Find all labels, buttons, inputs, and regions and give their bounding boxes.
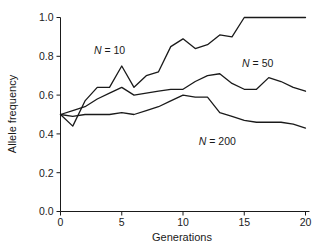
- x-tick-label: 20: [300, 216, 312, 228]
- x-tick-label: 0: [58, 216, 64, 228]
- chart-canvas: 0.00.20.40.60.81.0 05101520 N = 10N = 50…: [0, 0, 330, 251]
- series-label: N = 200: [199, 135, 236, 147]
- y-tick-label: 1.0: [39, 11, 54, 23]
- series-line: [61, 95, 306, 128]
- allele-frequency-chart: 0.00.20.40.60.81.0 05101520 N = 10N = 50…: [0, 0, 330, 251]
- chart-series-lines: [61, 18, 306, 129]
- x-tick-label: 5: [119, 216, 125, 228]
- x-tick-label: 15: [238, 216, 250, 228]
- x-tick-labels: 05101520: [58, 216, 312, 228]
- y-tick-label: 0.4: [39, 128, 54, 140]
- y-axis-title: Allele frequency: [6, 74, 18, 153]
- y-tick-labels: 0.00.20.40.60.81.0: [39, 11, 54, 217]
- x-tick-label: 10: [177, 216, 189, 228]
- series-line: [61, 74, 306, 115]
- series-label: N = 10: [94, 44, 125, 56]
- y-tick-label: 0.2: [39, 167, 54, 179]
- y-tick-label: 0.6: [39, 89, 54, 101]
- series-line: [61, 18, 306, 127]
- x-axis-title: Generations: [152, 231, 212, 243]
- series-label: N = 50: [242, 57, 273, 69]
- y-tick-label: 0.0: [39, 205, 54, 217]
- y-tick-label: 0.8: [39, 50, 54, 62]
